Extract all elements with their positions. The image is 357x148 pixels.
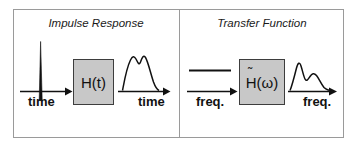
figure-canvas: Impulse Response Transfer Function [0,0,357,148]
axis-label-input-freq: freq. [196,94,224,109]
system-box-label-hw-arg: (ω) [257,74,279,91]
system-box-impulse-response: H(t) [73,59,114,105]
system-box-transfer-function: ˜H(ω) [239,59,285,105]
waveform-double-hump-icon [123,56,160,90]
system-box-label-hw: ˜H(ω) [246,75,279,90]
axis-label-output-time: time [138,94,165,109]
waveform-peak-decay-icon [290,63,334,91]
system-box-label-ht: H(t) [81,74,106,91]
diagram-artwork [0,0,357,148]
tilde-accent: ˜ [246,66,255,79]
axis-label-output-freq: freq. [303,94,331,109]
axis-label-input-time: time [28,94,55,109]
